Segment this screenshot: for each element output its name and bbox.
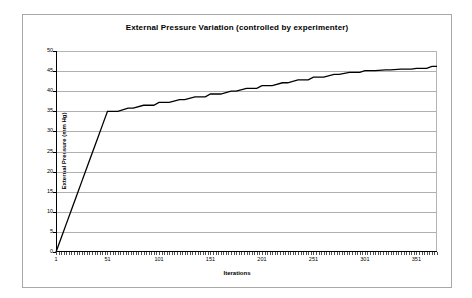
x-minor-tick [247,252,248,255]
x-minor-tick [432,252,433,255]
x-minor-tick [126,252,127,255]
x-minor-tick [113,252,114,255]
x-minor-tick [218,252,219,255]
x-minor-tick [118,252,119,255]
x-tick-label: 301 [360,257,369,263]
x-minor-tick [437,252,438,255]
x-minor-tick [133,252,134,255]
x-minor-tick [355,252,356,255]
x-minor-tick [326,252,327,255]
x-minor-tick [105,252,106,255]
x-minor-tick [257,252,258,255]
x-tick-label: 101 [154,257,163,263]
x-minor-tick [293,252,294,255]
x-minor-tick [283,252,284,255]
x-minor-tick [259,252,260,255]
x-minor-tick [427,252,428,255]
x-minor-tick [267,252,268,255]
x-tick-label: 351 [412,257,421,263]
x-minor-tick [419,252,420,255]
x-minor-tick [378,252,379,255]
x-minor-tick [329,252,330,255]
x-minor-tick [404,252,405,255]
x-minor-tick [386,252,387,255]
x-minor-tick [391,252,392,255]
x-minor-tick [383,252,384,255]
x-minor-tick [198,252,199,255]
x-minor-tick [164,252,165,255]
x-minor-tick [270,252,271,255]
x-minor-tick [234,252,235,255]
x-minor-tick [277,252,278,255]
x-minor-tick [74,252,75,255]
x-minor-tick [97,252,98,255]
x-minor-tick [347,252,348,255]
x-minor-tick [331,252,332,255]
x-minor-tick [69,252,70,255]
x-minor-tick [141,252,142,255]
x-minor-tick [321,252,322,255]
x-minor-tick [290,252,291,255]
x-minor-tick [138,252,139,255]
x-minor-tick [192,252,193,255]
chart-title: External Pressure Variation (controlled … [23,23,451,32]
x-minor-tick [187,252,188,255]
x-minor-tick [236,252,237,255]
x-minor-tick [275,252,276,255]
x-minor-tick [393,252,394,255]
x-minor-tick [100,252,101,255]
x-minor-tick [334,252,335,255]
x-minor-tick [311,252,312,255]
x-minor-tick [82,252,83,255]
x-minor-tick [84,252,85,255]
x-minor-tick [120,252,121,255]
x-minor-tick [306,252,307,255]
x-minor-tick [128,252,129,255]
x-minor-tick [365,252,366,255]
x-minor-tick [159,252,160,255]
x-minor-tick [434,252,435,255]
x-minor-tick [228,252,229,255]
x-minor-tick [298,252,299,255]
x-minor-tick [174,252,175,255]
x-minor-tick [87,252,88,255]
x-minor-tick [244,252,245,255]
x-minor-tick [223,252,224,255]
x-minor-tick [380,252,381,255]
plot-area: 05101520253035404550 1511011512012513013… [56,51,437,252]
x-minor-tick [375,252,376,255]
x-minor-tick [200,252,201,255]
x-minor-tick [342,252,343,255]
x-tick-label: 1 [54,257,57,263]
x-minor-tick [288,252,289,255]
x-minor-tick [59,252,60,255]
x-minor-tick [401,252,402,255]
x-minor-tick [136,252,137,255]
x-minor-tick [239,252,240,255]
x-minor-tick [406,252,407,255]
x-minor-tick [123,252,124,255]
x-minor-tick [295,252,296,255]
x-minor-tick [190,252,191,255]
x-minor-tick [144,252,145,255]
x-minor-tick [95,252,96,255]
x-minor-tick [362,252,363,255]
x-axis-minor-ticks [56,252,437,256]
x-minor-tick [162,252,163,255]
x-minor-tick [151,252,152,255]
x-tick-label: 51 [104,257,110,263]
x-minor-tick [337,252,338,255]
x-minor-tick [146,252,147,255]
x-minor-tick [429,252,430,255]
x-minor-tick [221,252,222,255]
data-series-line [56,51,437,252]
x-minor-tick [249,252,250,255]
x-minor-tick [424,252,425,255]
x-minor-tick [316,252,317,255]
x-minor-tick [262,252,263,255]
x-minor-tick [409,252,410,255]
x-minor-tick [66,252,67,255]
x-minor-tick [56,252,57,255]
x-minor-tick [64,252,65,255]
x-minor-tick [319,252,320,255]
